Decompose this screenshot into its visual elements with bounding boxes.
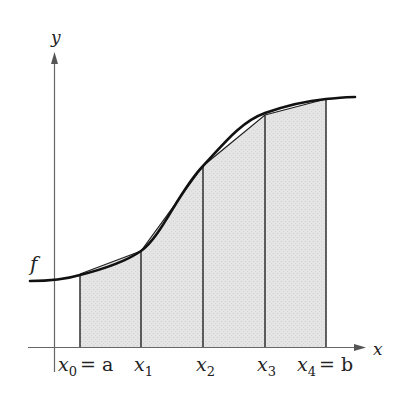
- label-x1: x1: [134, 353, 153, 379]
- label-x0-equals-a: x0= a: [58, 353, 113, 379]
- y-axis: y: [50, 27, 61, 372]
- label-x2: x2: [196, 353, 215, 379]
- trapezoidal-rule-diagram: y x f x0= a x1 x2 x3 x4= b: [0, 0, 410, 399]
- label-x3: x3: [257, 353, 276, 379]
- curve-label-f: f: [28, 252, 41, 276]
- y-axis-arrow-icon: [51, 52, 58, 64]
- x-axis-label: x: [373, 339, 383, 359]
- x-axis-arrow-icon: [354, 344, 366, 351]
- y-axis-label: y: [50, 27, 61, 47]
- partition-labels: x0= a x1 x2 x3 x4= b: [58, 353, 353, 379]
- label-x4-equals-b: x4= b: [297, 353, 353, 379]
